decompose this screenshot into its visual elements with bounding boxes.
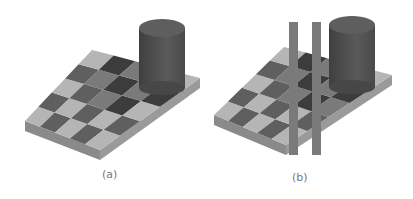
checkerboard-illusion-image-b [206, 0, 413, 199]
panel-a: (a) [0, 0, 206, 199]
vertical-bar-left [289, 22, 298, 155]
vertical-bar-right [312, 22, 321, 155]
panel-b-caption: (b) [292, 171, 308, 184]
panel-a-caption: (a) [102, 168, 117, 181]
panel-b: (b) [206, 0, 412, 199]
